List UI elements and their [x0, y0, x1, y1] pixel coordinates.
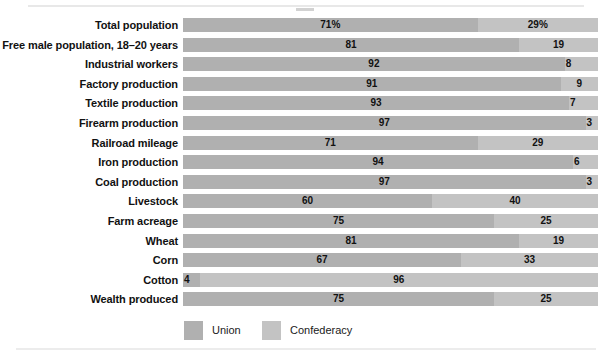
bar-segment-union: 71%: [183, 18, 478, 32]
stacked-bar: 7525: [183, 214, 598, 228]
legend-item-confederacy: Confederacy: [262, 320, 352, 340]
bar-value-confederacy: 29%: [478, 18, 598, 32]
bar-value-union: 93: [183, 96, 569, 110]
stacked-bar: 6040: [183, 194, 598, 208]
row-category-label: Industrial workers: [0, 57, 178, 71]
chart-row: Factory production919: [0, 77, 613, 97]
bar-segment-union: 91: [183, 77, 561, 91]
row-category-label: Railroad mileage: [0, 136, 178, 150]
bar-segment-confederacy: 96: [200, 273, 598, 287]
row-category-label: Total population: [0, 18, 178, 32]
chart-row: Wheat8119: [0, 234, 613, 254]
bar-segment-union: 81: [183, 234, 519, 248]
bar-value-confederacy: 25: [494, 214, 598, 228]
stacked-bar: 8119: [183, 234, 598, 248]
bar-value-union: 94: [183, 155, 573, 169]
bar-segment-union: 60: [183, 194, 432, 208]
bar-value-union: 71%: [183, 18, 478, 32]
chart-row: Wealth produced7525: [0, 292, 613, 312]
bar-segment-confederacy: 9: [561, 77, 598, 91]
bar-value-union: 97: [183, 116, 586, 130]
bar-value-confederacy: 7: [570, 96, 576, 110]
bar-segment-confederacy: 33: [461, 253, 598, 267]
legend-item-union: Union: [184, 320, 241, 340]
bar-value-confederacy: 29: [478, 136, 598, 150]
chart-row: Industrial workers928: [0, 57, 613, 77]
bar-value-confederacy: 3: [587, 175, 593, 189]
chart-row: Textile production937: [0, 96, 613, 116]
legend-swatch-confederacy-icon: [262, 321, 281, 340]
bar-segment-confederacy: 3: [586, 116, 598, 130]
row-category-label: Free male population, 18–20 years: [0, 38, 178, 52]
bar-segment-union: 97: [183, 175, 586, 189]
chart-row: Total population71%29%: [0, 18, 613, 38]
row-category-label: Wealth produced: [0, 292, 178, 306]
bar-segment-union: 4: [183, 273, 200, 287]
bar-segment-union: 81: [183, 38, 519, 52]
stacked-bar: 6733: [183, 253, 598, 267]
bar-segment-confederacy: 3: [586, 175, 598, 189]
row-category-label: Livestock: [0, 194, 178, 208]
bar-value-confederacy: 19: [519, 38, 598, 52]
bar-value-confederacy: 40: [432, 194, 598, 208]
bar-value-confederacy: 6: [574, 155, 580, 169]
bar-segment-confederacy: 25: [494, 214, 598, 228]
bar-value-union: 75: [183, 214, 494, 228]
bar-value-confederacy: 3: [587, 116, 593, 130]
chart-legend: Union Confederacy: [0, 320, 613, 342]
bar-segment-union: 93: [183, 96, 569, 110]
chart-plot-area: Total population71%29%Free male populati…: [0, 18, 613, 312]
chart-row: Railroad mileage7129: [0, 136, 613, 156]
bar-value-confederacy: 9: [561, 77, 598, 91]
chart-row: Corn6733: [0, 253, 613, 273]
bar-segment-union: 71: [183, 136, 478, 150]
chart-row: Cotton496: [0, 273, 613, 293]
bar-segment-union: 75: [183, 292, 494, 306]
legend-label-union: Union: [212, 324, 241, 336]
bar-segment-confederacy: 8: [565, 57, 598, 71]
chart-row: Farm acreage7525: [0, 214, 613, 234]
bar-segment-confederacy: 7: [569, 96, 598, 110]
bar-value-union: 75: [183, 292, 494, 306]
row-category-label: Textile production: [0, 96, 178, 110]
stacked-bar: 7129: [183, 136, 598, 150]
bar-segment-union: 75: [183, 214, 494, 228]
top-divider-rule: [28, 5, 584, 7]
stacked-bar: 8119: [183, 38, 598, 52]
bar-value-union: 60: [183, 194, 432, 208]
bar-value-union: 4: [184, 273, 190, 287]
bar-segment-union: 92: [183, 57, 565, 71]
bar-value-union: 97: [183, 175, 586, 189]
bar-value-confederacy: 25: [494, 292, 598, 306]
bar-segment-confederacy: 25: [494, 292, 598, 306]
bar-segment-confederacy: 19: [519, 38, 598, 52]
bar-value-union: 92: [183, 57, 565, 71]
bottom-divider-rule: [16, 348, 596, 350]
stacked-bar: 973: [183, 175, 598, 189]
row-category-label: Iron production: [0, 155, 178, 169]
stacked-bar-chart-figure: Total population71%29%Free male populati…: [0, 0, 613, 362]
bar-value-confederacy: 8: [566, 57, 572, 71]
bar-value-confederacy: 96: [200, 273, 598, 287]
chart-row: Firearm production973: [0, 116, 613, 136]
bar-value-confederacy: 19: [519, 234, 598, 248]
stacked-bar: 496: [183, 273, 598, 287]
bar-segment-confederacy: 19: [519, 234, 598, 248]
bar-value-union: 81: [183, 38, 519, 52]
row-category-label: Corn: [0, 253, 178, 267]
bar-value-union: 91: [183, 77, 561, 91]
row-category-label: Farm acreage: [0, 214, 178, 228]
row-category-label: Coal production: [0, 175, 178, 189]
bar-segment-union: 94: [183, 155, 573, 169]
bar-value-union: 81: [183, 234, 519, 248]
stacked-bar: 71%29%: [183, 18, 598, 32]
top-clipped-title-fragment: [296, 8, 314, 11]
stacked-bar: 928: [183, 57, 598, 71]
chart-row: Livestock6040: [0, 194, 613, 214]
bar-segment-union: 97: [183, 116, 586, 130]
row-category-label: Factory production: [0, 77, 178, 91]
bar-segment-union: 67: [183, 253, 461, 267]
bar-segment-confederacy: 29: [478, 136, 598, 150]
row-category-label: Cotton: [0, 273, 178, 287]
stacked-bar: 946: [183, 155, 598, 169]
